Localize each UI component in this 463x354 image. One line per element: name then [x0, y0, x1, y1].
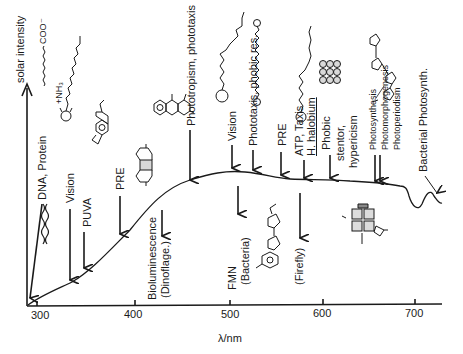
label-dinoflage: (Dinoflage.): [159, 241, 171, 298]
chlorophyll-structure-icon: [342, 204, 388, 244]
label-atp-taxis: ATP, Taxis: [293, 106, 305, 156]
label-puva: PUVA: [81, 198, 93, 227]
molecule-label-nh3: +NH₃: [54, 82, 64, 104]
label-phototropism: Phototropism, phototaxis: [185, 5, 197, 126]
hypericin-structure-icon: [320, 61, 341, 84]
x-axis: [27, 304, 442, 306]
molecule-label-coo: COO⁻: [38, 18, 48, 44]
label-h-halobium: H. halobium: [305, 97, 317, 156]
label-pre-2: PRE: [276, 123, 288, 146]
amino-acid-structure-icon: [43, 46, 45, 86]
label-photoperiodism: Photoperiodism: [392, 87, 402, 150]
label-firefly: (Firefly): [293, 248, 305, 285]
dna-helix-icon: [42, 204, 49, 244]
psoralen-structure-icon: [92, 100, 108, 144]
label-pre-1: PRE: [114, 167, 126, 190]
x-tick-label-300: 300: [31, 309, 49, 321]
label-dna-protein: DNA, Protein: [36, 136, 48, 200]
x-axis-label: λ/nm: [218, 332, 242, 344]
label-bioluminescence: Bioluminescence: [146, 217, 158, 300]
label-vision-uv: Vision: [64, 173, 76, 203]
x-tick-label-500: 500: [221, 308, 239, 320]
arrow-bacterial-photosynth: [425, 176, 437, 193]
label-fmn: FMN: [226, 266, 238, 290]
x-tick-label-400: 400: [124, 308, 142, 320]
arrow-dna-protein: [30, 204, 42, 298]
retinal-visible-structure-icon: [216, 12, 244, 102]
label-photomorphogenesis: Photomorphogenesis: [380, 65, 390, 150]
label-stentor: stentor,: [334, 125, 346, 161]
label-photosynthesis: Photosynthesis: [368, 89, 378, 150]
process-arrows-below: [162, 186, 300, 238]
label-vision-visible: Vision: [226, 111, 238, 141]
label-phobic: Phobic: [320, 116, 332, 150]
luciferin-structure-icon: [256, 204, 280, 268]
label-bacteria: (Bacteria): [239, 237, 251, 285]
pyrimidine-dimer-structure-icon: [136, 144, 152, 186]
label-phototaxis-phobic: Phototaxis, phobic res.: [247, 35, 259, 146]
retinal-structure-icon: [60, 36, 80, 121]
label-bacterial-photosynth: Bacterial Photosynth.: [417, 68, 429, 172]
x-tick-label-600: 600: [313, 307, 331, 319]
y-axis-label: solar intensity: [14, 16, 26, 83]
x-tick-label-700: 700: [405, 307, 423, 319]
label-hypericism: hypericism: [347, 115, 359, 168]
